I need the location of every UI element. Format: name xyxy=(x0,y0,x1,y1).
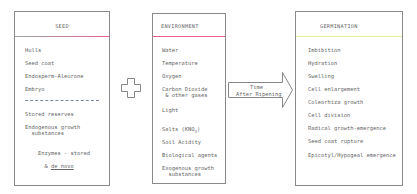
plus-icon xyxy=(120,77,142,99)
seed-item-embryo: Embryo xyxy=(25,86,44,92)
germ-item-hydration: Hydration xyxy=(308,60,337,66)
germ-item-cell-enlargement: Cell enlargement xyxy=(308,86,360,92)
germ-item-coleorhiza: Coleorhiza growth xyxy=(308,99,363,105)
arrow-label-line2: After Ripening xyxy=(236,91,281,97)
seed-item-stored-reserves: Stored reserves xyxy=(25,111,74,117)
env-item-soil-acidity: Soil Acidity xyxy=(162,139,201,145)
env-item-co2: Carbon Dioxide & other gases xyxy=(162,86,207,99)
enzymes-line1: Enzymes - stored xyxy=(38,150,90,156)
env-item-salts: Salts (KNO3) xyxy=(162,126,200,135)
germination-box: GERMINATION Imbibition Hydration Swellin… xyxy=(295,11,403,186)
germ-item-cell-division: Cell division xyxy=(308,112,350,118)
env-item-water: Water xyxy=(162,47,178,53)
germ-item-imbibition: Imbibition xyxy=(308,47,340,53)
seed-item-enzymes: Enzymes - stored & de novo xyxy=(25,144,90,176)
seed-item-endosperm: Endosperm-Aleurone xyxy=(25,73,83,79)
env-item-light: Light xyxy=(162,107,178,113)
germ-item-epicotyl: Epicotyl/Hypogeal emergence xyxy=(308,152,396,158)
environment-title: ENVIRONMENT xyxy=(161,23,225,29)
seed-dashed-divider xyxy=(25,100,99,101)
germination-title-separator xyxy=(296,36,402,37)
arrow-label-line1: Time xyxy=(250,84,263,90)
enzymes-de-novo: de novo xyxy=(51,163,74,169)
env-item-exogenous: Exogenous growth substances xyxy=(162,165,214,178)
salts-prefix: Salts (KNO xyxy=(162,126,194,132)
env-item-biological: Biological agents xyxy=(162,152,217,158)
seed-item-hulls: Hulls xyxy=(25,47,41,53)
salts-suffix: ) xyxy=(197,126,200,132)
seed-title: SEED xyxy=(15,23,109,29)
seed-item-endogenous: Endogenous growth substances xyxy=(25,124,80,137)
env-item-oxygen: Oxygen xyxy=(162,73,181,79)
germ-item-seed-coat-rupture: Seed coat rupture xyxy=(308,138,363,144)
seed-box: SEED Hulls Seed coat Endosperm-Aleurone … xyxy=(14,11,110,186)
germ-item-radical-growth: Radical growth-emergence xyxy=(308,125,386,131)
seed-item-seed-coat: Seed coat xyxy=(25,60,54,66)
environment-box: ENVIRONMENT Water Temperature Oxygen Car… xyxy=(152,13,226,184)
seed-title-separator xyxy=(15,36,109,37)
environment-title-separator xyxy=(153,36,225,37)
germination-title: GERMINATION xyxy=(320,23,402,29)
germ-item-swelling: Swelling xyxy=(308,73,334,79)
env-item-temperature: Temperature xyxy=(162,60,198,66)
